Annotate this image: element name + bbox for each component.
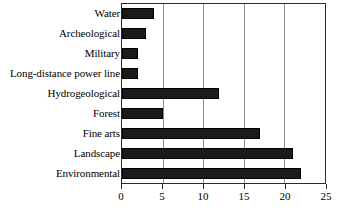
bar xyxy=(122,48,138,59)
bar-row xyxy=(122,163,325,183)
category-label-row: Archeological xyxy=(0,23,121,43)
bar-row xyxy=(122,24,325,44)
category-label-row: Fine arts xyxy=(0,124,121,144)
x-axis-tick-marks xyxy=(121,184,326,189)
plot-area xyxy=(121,3,326,184)
x-tick-label: 25 xyxy=(321,190,332,203)
category-label: Long-distance power line xyxy=(10,68,120,79)
category-label: Military xyxy=(85,48,120,59)
x-tick-label: 15 xyxy=(239,190,250,203)
x-tick-label: 20 xyxy=(280,190,291,203)
x-tick-mark xyxy=(162,184,163,189)
category-label: Environmental xyxy=(56,168,120,179)
bar xyxy=(122,168,301,179)
category-label-row: Water xyxy=(0,3,121,23)
bar xyxy=(122,128,260,139)
bar xyxy=(122,8,154,19)
bar-row xyxy=(122,44,325,64)
bar xyxy=(122,88,219,99)
x-tick-mark xyxy=(121,184,122,189)
x-axis-tick-labels: 0510152025 xyxy=(121,190,326,206)
bar-chart: WaterArcheologicalMilitaryLong-distance … xyxy=(0,0,341,214)
bar-row xyxy=(122,103,325,123)
x-tick-mark xyxy=(285,184,286,189)
category-axis-labels: WaterArcheologicalMilitaryLong-distance … xyxy=(0,3,121,184)
bar xyxy=(122,108,163,119)
category-label: Archeological xyxy=(59,28,120,39)
category-label: Fine arts xyxy=(83,128,120,139)
bar-row xyxy=(122,64,325,84)
bar xyxy=(122,28,146,39)
category-label-row: Hydrogeological xyxy=(0,83,121,103)
bar-row xyxy=(122,143,325,163)
bars-container xyxy=(122,4,325,183)
category-label: Hydrogeological xyxy=(48,88,120,99)
x-tick-label: 10 xyxy=(198,190,209,203)
category-label-row: Environmental xyxy=(0,164,121,184)
category-label-row: Military xyxy=(0,43,121,63)
category-label: Forest xyxy=(93,108,120,119)
bar-row xyxy=(122,123,325,143)
category-label-row: Long-distance power line xyxy=(0,63,121,83)
x-tick-mark xyxy=(203,184,204,189)
category-label-row: Forest xyxy=(0,104,121,124)
bar-row xyxy=(122,4,325,24)
category-label: Water xyxy=(95,8,121,19)
x-tick-mark xyxy=(326,184,327,189)
category-label-row: Landscape xyxy=(0,144,121,164)
bar xyxy=(122,68,138,79)
bar xyxy=(122,148,293,159)
category-label: Landscape xyxy=(74,148,120,159)
x-tick-label: 5 xyxy=(159,190,165,203)
bar-row xyxy=(122,84,325,104)
x-tick-label: 0 xyxy=(118,190,124,203)
x-tick-mark xyxy=(244,184,245,189)
